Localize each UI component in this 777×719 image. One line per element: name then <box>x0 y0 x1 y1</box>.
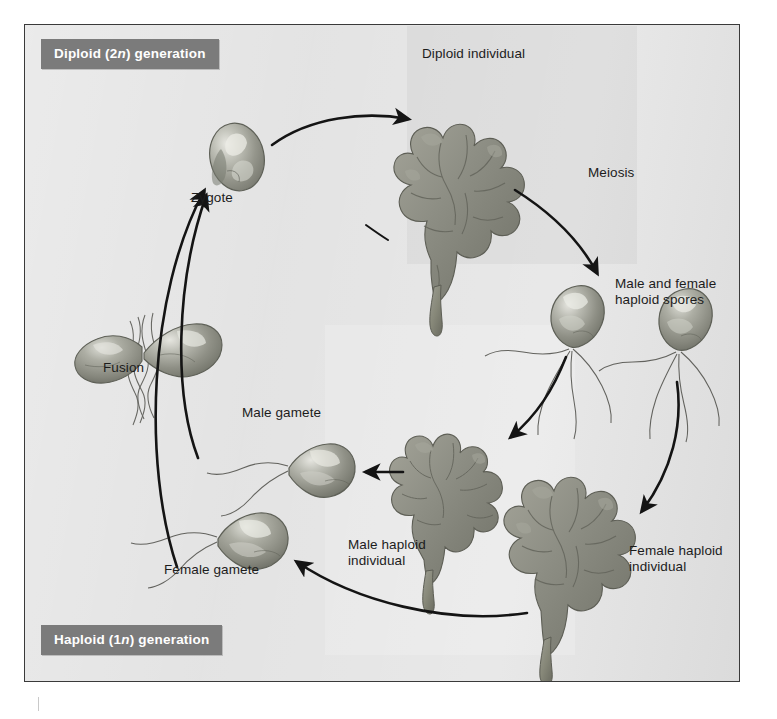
arrow-female-gamete-to-zygote <box>156 191 204 567</box>
label-meiosis: Meiosis <box>588 165 634 181</box>
banner-haploid-italic-n: n <box>121 632 129 647</box>
arrow-zygote-to-diploid <box>272 116 408 145</box>
banner-haploid-suffix: ) generation <box>130 632 210 647</box>
haploid-spore-left-illustration <box>485 286 611 439</box>
label-fusion: Fusion <box>103 360 144 376</box>
arrow-meiosis <box>515 190 597 273</box>
label-haploid-spores: Male and female haploid spores <box>615 276 716 307</box>
figure-root: Diploid (2n) generation Haploid (1n) gen… <box>0 0 777 719</box>
zygote-illustration <box>204 118 271 196</box>
fusion-illustration <box>75 313 222 425</box>
banner-diploid-suffix: ) generation <box>126 46 206 61</box>
banner-diploid-italic-n: n <box>118 46 126 61</box>
label-zygote: Zygote <box>191 190 233 206</box>
diploid-individual-illustration <box>394 124 524 336</box>
label-female-haploid-individual: Female haploid individual <box>629 543 723 574</box>
label-female-gamete: Female gamete <box>164 562 259 578</box>
label-male-gamete: Male gamete <box>242 405 321 421</box>
banner-diploid-prefix: Diploid (2 <box>54 46 118 61</box>
label-diploid-individual: Diploid individual <box>422 46 525 62</box>
haploid-spore-right-illustration <box>599 289 719 442</box>
leader-diploid <box>366 225 388 240</box>
male-haploid-individual-illustration <box>390 434 503 614</box>
female-haploid-individual-illustration <box>504 477 635 682</box>
arrow-spores-to-female-individual <box>642 382 679 511</box>
banner-diploid-generation: Diploid (2n) generation <box>41 39 219 69</box>
banner-haploid-generation: Haploid (1n) generation <box>41 625 222 655</box>
label-male-haploid-individual: Male haploid individual <box>348 537 426 568</box>
male-gamete-illustration <box>207 444 355 516</box>
banner-haploid-prefix: Haploid (1 <box>54 632 121 647</box>
page-tick-mark <box>38 697 39 711</box>
label-leader-lines <box>366 225 388 240</box>
arrow-female-individual-to-gamete <box>297 562 527 616</box>
illustration-layer <box>25 25 740 682</box>
diagram-panel: Diploid (2n) generation Haploid (1n) gen… <box>24 24 740 682</box>
